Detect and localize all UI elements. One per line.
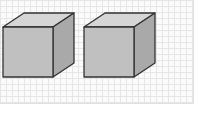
cube-left bbox=[3, 13, 74, 77]
cube-right-front-face bbox=[84, 27, 134, 77]
cube-right bbox=[84, 13, 155, 77]
cube-left-front-face bbox=[3, 27, 53, 77]
cubes-diagram bbox=[0, 0, 205, 114]
